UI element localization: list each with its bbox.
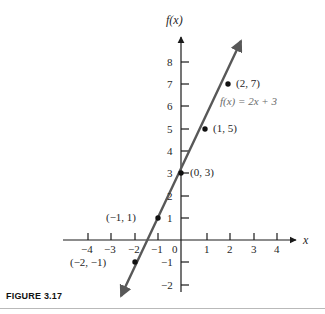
y-tick-label-4: 4 (167, 146, 173, 157)
y-tick-label-7: 7 (167, 79, 173, 90)
data-point (132, 259, 137, 264)
y-tick-label-5: 5 (167, 124, 173, 135)
function-equation-label: f(x) = 2x + 3 (220, 96, 277, 107)
point-label-0-3: (0, 3) (190, 167, 214, 178)
point-label-2-7: (2, 7) (236, 78, 260, 89)
x-tick-label-3: 3 (251, 244, 257, 255)
point-label-neg2-neg1: (−2, −1) (70, 257, 106, 268)
x-axis-label: x (303, 234, 308, 246)
figure-container: f(x) x 8 7 6 5 4 3 2 1 −1 −2 −4 −3 −2 −1… (0, 0, 325, 314)
x-tick-label-0: 0 (172, 244, 178, 255)
bottom-divider (0, 308, 325, 309)
y-tick-label-8: 8 (167, 57, 173, 68)
y-axis-label: f(x) (166, 14, 183, 26)
y-tick-label-3: 3 (167, 168, 173, 179)
point-label-neg1-1: (−1, 1) (106, 212, 136, 223)
x-tick-label-1: 1 (204, 244, 210, 255)
x-tick-label-neg4: −4 (81, 244, 93, 255)
x-axis (63, 233, 296, 240)
y-tick-label-neg2: −2 (161, 280, 173, 291)
x-tick-label-4: 4 (274, 244, 280, 255)
x-tick-label-neg2: −2 (128, 244, 140, 255)
x-axis-ticks (88, 233, 277, 240)
y-tick-label-6: 6 (167, 101, 173, 112)
y-tick-label-2: 2 (167, 191, 173, 202)
y-tick-label-neg1: −1 (161, 257, 173, 268)
data-point (202, 126, 207, 131)
x-tick-label-neg3: −3 (104, 244, 116, 255)
data-point (178, 170, 183, 175)
figure-caption: FIGURE 3.17 (6, 291, 62, 301)
data-point (155, 215, 160, 220)
x-tick-label-neg1: −1 (151, 244, 163, 255)
y-tick-label-1: 1 (167, 213, 173, 224)
point-label-1-5: (1, 5) (213, 123, 237, 134)
x-tick-label-2: 2 (227, 244, 233, 255)
data-point (225, 81, 230, 86)
